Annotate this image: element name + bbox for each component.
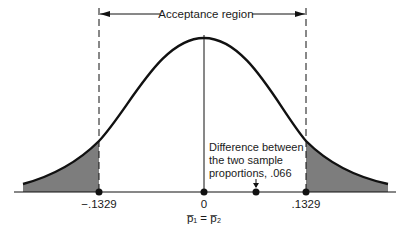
point-pos-critical: [303, 189, 310, 196]
tick-label-neg: −.1329: [81, 198, 117, 210]
acceptance-region-label: Acceptance region: [158, 8, 253, 20]
normal-curve-diagram: Acceptance region −.1329 0 .1329 p̅₁ = p…: [0, 0, 403, 232]
annotation-line-2: the two sample: [209, 154, 283, 166]
point-observed-difference: [253, 189, 260, 196]
center-sublabel: p̅₁ = p̅₂: [186, 212, 221, 224]
right-rejection-tail: [306, 141, 388, 192]
annotation-line-3: proportions, .066: [209, 167, 292, 179]
tick-label-zero: 0: [201, 198, 207, 210]
left-rejection-tail: [23, 141, 99, 192]
annotation-arrow: [253, 179, 259, 188]
tick-label-pos: .1329: [292, 198, 321, 210]
point-neg-critical: [96, 189, 103, 196]
annotation-line-1: Difference between: [209, 141, 304, 153]
point-zero: [201, 189, 208, 196]
